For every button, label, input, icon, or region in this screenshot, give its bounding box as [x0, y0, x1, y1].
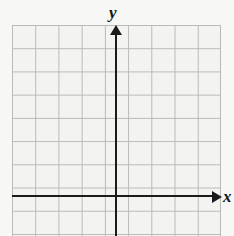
coordinate-grid-figure: y x — [0, 0, 234, 236]
y-axis-label: y — [109, 4, 117, 21]
graph-grid-right-border — [220, 25, 221, 236]
y-axis-arrow-icon — [110, 25, 122, 35]
x-axis-line — [12, 195, 215, 197]
y-axis-line — [115, 31, 117, 236]
x-axis-arrow-icon — [212, 191, 222, 203]
x-axis-label: x — [223, 188, 232, 205]
